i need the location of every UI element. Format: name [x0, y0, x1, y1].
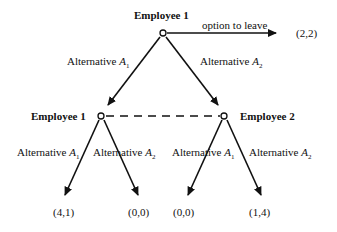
root-node: [160, 30, 166, 36]
root-edge-a2: [166, 37, 218, 105]
node-left-player-label: Employee 1: [31, 110, 86, 122]
root-branch-a2-label: Alternative A2: [200, 55, 263, 70]
right-branch-a1-label: Alternative A1: [172, 146, 235, 161]
payoff-right-a2: (1,4): [249, 206, 270, 219]
payoff-left-a2: (0,0): [128, 206, 149, 219]
left-branch-a1-label: Alternative A1: [17, 146, 80, 161]
root-branch-a1-label: Alternative A1: [67, 55, 130, 70]
leave-payoff: (2,2): [296, 27, 317, 40]
node-right: [221, 113, 227, 119]
right-branch-a2-label: Alternative A2: [249, 146, 312, 161]
leave-option-label: option to leave: [202, 19, 267, 31]
game-tree-diagram: Employee 1 option to leave (2,2) Alterna…: [0, 0, 337, 232]
root-player-label: Employee 1: [134, 9, 189, 21]
root-edge-a1: [108, 37, 160, 105]
node-left: [98, 113, 104, 119]
left-branch-a2-label: Alternative A2: [93, 146, 156, 161]
node-right-player-label: Employee 2: [240, 110, 295, 122]
payoff-left-a1: (4,1): [53, 206, 74, 219]
payoff-right-a1: (0,0): [173, 206, 194, 219]
